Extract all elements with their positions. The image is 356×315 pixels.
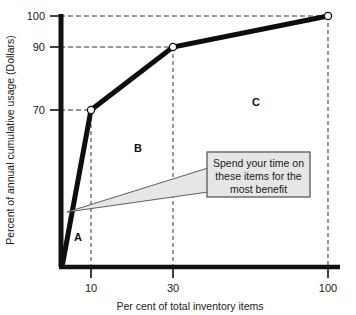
callout-line-3: most benefit — [230, 183, 287, 195]
data-point-100-100 — [324, 12, 331, 19]
y-axis-title: Percent of annual cumulative usage (Doll… — [4, 35, 16, 245]
x-tick-label-10: 10 — [85, 282, 97, 294]
x-axis-title: Per cent of total inventory items — [116, 300, 263, 312]
axes — [59, 14, 340, 267]
data-point-30-90 — [169, 43, 176, 50]
chart-canvas: 100 90 70 10 30 100 Per cent of total in… — [0, 0, 356, 315]
guide-lines — [60, 16, 328, 267]
abc-analysis-chart: 100 90 70 10 30 100 Per cent of total in… — [0, 0, 356, 315]
y-tick-label-90: 90 — [33, 41, 45, 53]
region-label-b: B — [134, 142, 142, 154]
region-label-c: C — [252, 96, 260, 108]
callout-line-1: Spend your time on — [213, 157, 304, 169]
curve-line — [62, 16, 328, 267]
region-label-a: A — [74, 231, 82, 243]
data-point-10-70 — [87, 106, 94, 113]
callout-line-2: these items for the — [215, 170, 302, 182]
callout-pointer — [67, 168, 208, 212]
y-tick-label-70: 70 — [33, 104, 45, 116]
y-tick-label-100: 100 — [27, 10, 45, 22]
x-tick-label-30: 30 — [167, 282, 179, 294]
x-tick-label-100: 100 — [319, 282, 337, 294]
cumulative-usage-curve — [62, 12, 332, 267]
